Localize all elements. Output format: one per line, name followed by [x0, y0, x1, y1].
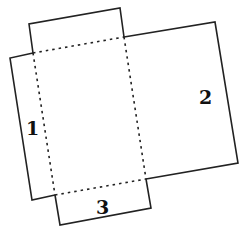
panel-2-outline	[124, 22, 238, 179]
fold-line-bottom	[55, 179, 146, 195]
fold-line-top	[33, 37, 124, 53]
fold-lines	[33, 37, 146, 195]
fold-line-right	[124, 37, 146, 179]
outline	[10, 8, 238, 225]
box-net-diagram: 1 2 3	[0, 0, 250, 238]
label-2: 2	[199, 86, 212, 108]
top-flap-outline	[29, 8, 124, 53]
label-1: 1	[26, 117, 39, 139]
label-3: 3	[96, 196, 109, 218]
